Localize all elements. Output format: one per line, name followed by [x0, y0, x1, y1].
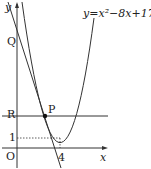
point-Q-label: Q: [7, 36, 16, 47]
tick-y-one: 1: [9, 132, 16, 143]
x-axis-label: x: [100, 152, 106, 163]
y-axis-arrow-icon: [15, 2, 19, 8]
equation-text: y=x²−8x+17: [83, 7, 151, 20]
parabola-curve: [22, 2, 94, 143]
point-P-dot: [43, 114, 47, 118]
y-axis-label: y: [5, 2, 11, 13]
equation-label: y=x²−8x+17: [83, 8, 151, 19]
point-P-label: P: [48, 104, 55, 115]
diagram-graphics: [0, 0, 151, 169]
diagram: y y=x²−8x+17 Q R P 1 O 4 x: [0, 0, 151, 169]
origin-label: O: [6, 151, 15, 162]
tick-x-four: 4: [58, 152, 65, 163]
point-R-label: R: [7, 109, 15, 120]
x-axis-arrow-icon: [102, 146, 108, 150]
